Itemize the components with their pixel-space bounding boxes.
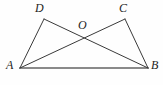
vertex-label-C: C <box>119 2 127 14</box>
vertex-label-B: B <box>151 59 158 71</box>
segment-AD <box>20 19 44 68</box>
vertex-label-O: O <box>78 19 87 31</box>
geometry-canvas <box>0 0 163 85</box>
vertex-label-D: D <box>35 2 44 14</box>
segment-CB <box>125 19 148 68</box>
segment-DB <box>44 19 148 68</box>
vertex-label-A: A <box>6 59 13 71</box>
segment-AC <box>20 19 125 68</box>
geometry-figure: A B C D O <box>0 0 163 85</box>
